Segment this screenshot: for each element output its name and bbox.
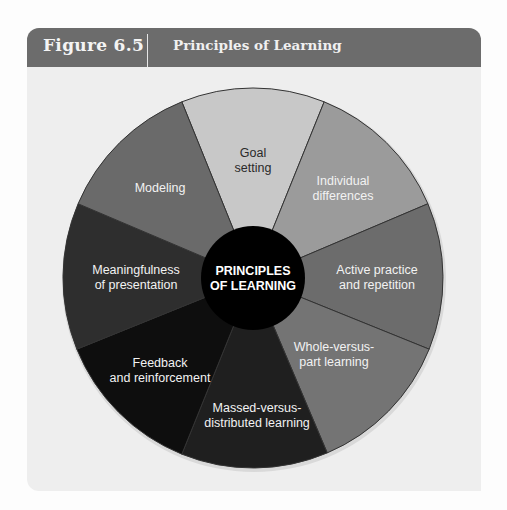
wedge-label-line: setting [235,161,272,175]
principles-wheel-diagram: GoalsettingIndividualdifferencesActive p… [0,0,507,510]
wedge-label-massed-versus-distributed: Massed-versus-distributed learning [204,401,310,430]
wedge-label-line: differences [313,189,374,203]
wedge-label-line: Active practice [336,263,417,277]
wedge-label-meaningfulness: Meaningfulnessof presentation [92,263,180,292]
wedge-label-line: Feedback [133,356,189,370]
center-hub [201,226,305,330]
wedge-label-line: Modeling [135,181,186,195]
center-label-line: OF LEARNING [210,279,296,293]
wedge-label-line: Individual [317,174,370,188]
wedge-label-line: Goal [240,146,266,160]
wedge-label-line: and reinforcement [110,371,211,385]
wedge-label-line: of presentation [95,278,178,292]
wedge-label-line: part learning [299,355,369,369]
wedge-label-whole-versus-part: Whole-versus-part learning [294,340,375,369]
wedge-label-line: Whole-versus- [294,340,375,354]
wedge-label-line: and repetition [339,278,415,292]
wedge-label-line: Massed-versus- [213,401,302,415]
wedge-label-line: Meaningfulness [92,263,180,277]
wedge-label-individual-differences: Individualdifferences [313,174,374,203]
center-label: PRINCIPLESOF LEARNING [210,264,296,293]
wedge-label-line: distributed learning [204,416,310,430]
wedge-label-goal-setting: Goalsetting [235,146,272,175]
center-label-line: PRINCIPLES [215,264,290,278]
wedge-label-modeling: Modeling [135,181,186,195]
wedge-label-active-practice: Active practiceand repetition [336,263,417,292]
